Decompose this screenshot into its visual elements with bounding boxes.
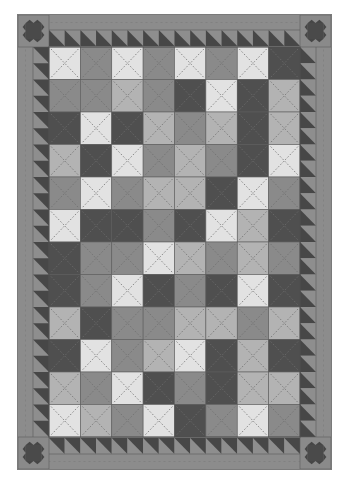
patch-cell xyxy=(143,307,174,340)
patch-cell xyxy=(237,145,268,178)
patch-cell xyxy=(49,275,80,308)
patch-cell xyxy=(80,145,111,178)
patch-cell xyxy=(175,177,206,210)
patch-cell xyxy=(49,80,80,113)
patch-cell xyxy=(269,80,300,113)
patch-cell xyxy=(206,210,237,243)
patch-cell xyxy=(237,372,268,405)
star-center xyxy=(26,445,42,461)
patch-cell xyxy=(206,145,237,178)
patch-cell xyxy=(80,177,111,210)
patch-cell xyxy=(49,210,80,243)
patch-cell xyxy=(80,47,111,80)
patch-cell xyxy=(80,80,111,113)
star-center xyxy=(308,23,324,39)
patch-cell xyxy=(206,307,237,340)
patch-cell xyxy=(175,372,206,405)
corner-star-block xyxy=(18,15,49,47)
patch-cell xyxy=(49,112,80,145)
patch-cell xyxy=(175,145,206,178)
patch-cell xyxy=(206,275,237,308)
patch-cell xyxy=(237,177,268,210)
patch-cell xyxy=(143,275,174,308)
patch-cell xyxy=(49,405,80,438)
patch-cell xyxy=(269,340,300,373)
patch-cell xyxy=(112,372,143,405)
patch-cell xyxy=(112,177,143,210)
patch-cell xyxy=(237,242,268,275)
patch-cell xyxy=(237,210,268,243)
patch-cell xyxy=(269,177,300,210)
patch-cell xyxy=(112,340,143,373)
patch-cell xyxy=(175,340,206,373)
patch-cell xyxy=(143,112,174,145)
patch-cell xyxy=(49,242,80,275)
patch-cell xyxy=(206,177,237,210)
patch-cell xyxy=(112,275,143,308)
patch-cell xyxy=(237,340,268,373)
patch-cell xyxy=(49,307,80,340)
patch-cell xyxy=(143,80,174,113)
patch-cell xyxy=(80,275,111,308)
patch-cell xyxy=(143,177,174,210)
patch-cell xyxy=(143,242,174,275)
patch-cell xyxy=(49,372,80,405)
corner-star-block xyxy=(18,437,49,469)
patch-cell xyxy=(49,177,80,210)
patch-cell xyxy=(206,80,237,113)
patch-cell xyxy=(143,47,174,80)
corner-star-block xyxy=(300,437,331,469)
patch-cell xyxy=(206,112,237,145)
patch-cell xyxy=(237,307,268,340)
patch-cell xyxy=(80,372,111,405)
patch-cell xyxy=(237,275,268,308)
patch-cell xyxy=(143,405,174,438)
patch-cell xyxy=(175,405,206,438)
patch-cell xyxy=(269,372,300,405)
patch-cell xyxy=(80,112,111,145)
patch-cell xyxy=(80,405,111,438)
patch-cell xyxy=(237,47,268,80)
patch-cell xyxy=(80,340,111,373)
patch-cell xyxy=(112,210,143,243)
corner-star-block xyxy=(300,15,331,47)
patch-cell xyxy=(175,242,206,275)
patch-cell xyxy=(206,405,237,438)
patch-cell xyxy=(175,47,206,80)
patch-cell xyxy=(143,340,174,373)
patch-cell xyxy=(206,372,237,405)
patch-cell xyxy=(80,307,111,340)
patch-cell xyxy=(112,405,143,438)
patch-cell xyxy=(112,242,143,275)
patch-cell xyxy=(206,340,237,373)
patch-cell xyxy=(80,210,111,243)
patch-cell xyxy=(112,307,143,340)
patch-cell xyxy=(143,372,174,405)
patch-cell xyxy=(112,112,143,145)
patch-cell xyxy=(175,80,206,113)
patch-cell xyxy=(175,307,206,340)
patch-cell xyxy=(237,112,268,145)
star-center xyxy=(308,445,324,461)
patch-cell xyxy=(112,80,143,113)
patch-cell xyxy=(175,210,206,243)
patch-cell xyxy=(49,340,80,373)
patch-cell xyxy=(206,242,237,275)
patch-cell xyxy=(143,210,174,243)
patch-cell xyxy=(237,405,268,438)
patch-cell xyxy=(237,80,268,113)
quilt xyxy=(18,15,331,469)
patch-cell xyxy=(269,145,300,178)
patch-cell xyxy=(175,112,206,145)
patch-cell xyxy=(269,47,300,80)
patch-cell xyxy=(269,210,300,243)
patch-cell xyxy=(143,145,174,178)
patch-cell xyxy=(112,47,143,80)
patch-cell xyxy=(206,47,237,80)
star-center xyxy=(26,23,42,39)
patchwork-field xyxy=(49,47,300,437)
patch-cell xyxy=(269,307,300,340)
patch-cell xyxy=(49,47,80,80)
patch-cell xyxy=(49,145,80,178)
patch-cell xyxy=(80,242,111,275)
